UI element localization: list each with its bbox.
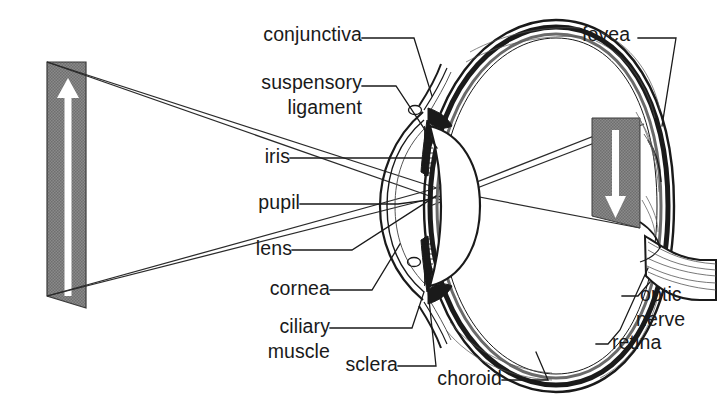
label-sclera: sclera <box>330 352 398 377</box>
label-cornea: cornea <box>228 276 330 301</box>
label-retina: retina <box>612 330 661 355</box>
retinal-image-arrow <box>592 118 640 228</box>
eye-diagram-figure: conjunctiva suspensory ligament iris pup… <box>0 0 719 413</box>
label-nerve: nerve <box>636 307 685 332</box>
label-muscle: muscle <box>222 339 330 364</box>
label-choroid: choroid <box>422 366 502 391</box>
ciliary-body-lower <box>408 258 421 267</box>
label-suspensory: suspensory <box>236 70 362 95</box>
label-ligament: ligament <box>236 95 362 120</box>
label-lens: lens <box>210 236 292 261</box>
cornea-inner <box>387 120 424 292</box>
label-iris: iris <box>210 144 290 169</box>
label-ciliary: ciliary <box>232 314 330 339</box>
label-optic: optic <box>640 282 682 307</box>
label-fovea: fovea <box>582 22 630 47</box>
object-arrow <box>47 62 86 308</box>
label-conjunctiva: conjunctiva <box>240 22 362 47</box>
label-pupil: pupil <box>210 190 300 215</box>
